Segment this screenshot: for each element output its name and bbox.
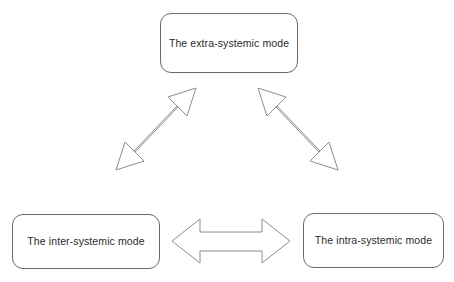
node-intra-systemic-mode-label: The intra-systemic mode bbox=[315, 234, 432, 247]
node-extra-systemic-mode-label: The extra-systemic mode bbox=[169, 37, 289, 50]
connector-bottom-horizontal bbox=[172, 219, 290, 263]
connector-left-diagonal bbox=[116, 88, 196, 170]
diagram-canvas: The extra-systemic mode The inter-system… bbox=[0, 0, 454, 282]
connector-right-diagonal bbox=[258, 88, 338, 170]
node-inter-systemic-mode-label: The inter-systemic mode bbox=[27, 235, 144, 248]
node-extra-systemic-mode[interactable]: The extra-systemic mode bbox=[160, 13, 298, 73]
node-intra-systemic-mode[interactable]: The intra-systemic mode bbox=[303, 213, 444, 268]
node-inter-systemic-mode[interactable]: The inter-systemic mode bbox=[12, 214, 160, 269]
